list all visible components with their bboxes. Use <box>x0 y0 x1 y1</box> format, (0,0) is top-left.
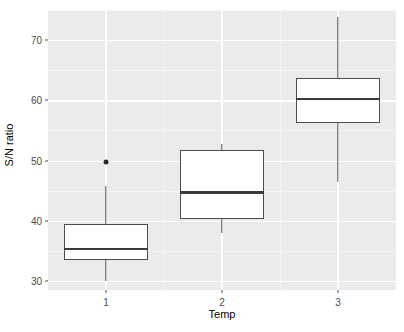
y-axis-tick-label: 60 <box>31 95 42 106</box>
x-axis-tick-label: 3 <box>335 297 341 308</box>
y-axis-tick-group: 3040506070 <box>18 0 48 332</box>
y-axis-title: S/N ratio <box>0 0 18 290</box>
y-axis-tick-label: 70 <box>31 35 42 46</box>
boxplot-chart: S/N ratio 3040506070 123 Temp <box>0 0 404 332</box>
x-axis-title: Temp <box>48 308 396 320</box>
plot-panel <box>48 10 396 290</box>
y-axis-tick-label: 40 <box>31 215 42 226</box>
y-axis-tick-label: 30 <box>31 275 42 286</box>
x-axis-tick-mark <box>222 290 223 293</box>
x-axis-tick-mark <box>338 290 339 293</box>
x-axis-tick-label: 1 <box>103 297 109 308</box>
y-axis-tick-label: 50 <box>31 155 42 166</box>
boxplot-group[interactable] <box>48 10 396 290</box>
whisker-lower <box>337 123 338 182</box>
median-line <box>296 98 380 100</box>
x-axis-tick-label: 2 <box>219 297 225 308</box>
x-axis-tick-mark <box>106 290 107 293</box>
x-axis-tick-group: 123 <box>48 290 396 310</box>
whisker-upper <box>337 17 338 78</box>
box-iqr <box>296 78 380 123</box>
y-axis-title-text: S/N ratio <box>3 124 15 167</box>
